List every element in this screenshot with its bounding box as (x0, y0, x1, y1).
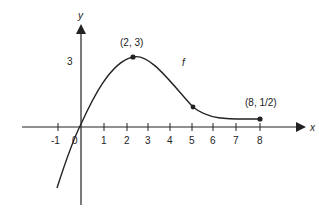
x-tick-labels: -1 0 1 2 3 4 5 6 7 8 (51, 135, 263, 146)
svg-text:3: 3 (145, 135, 151, 146)
svg-text:5: 5 (189, 135, 195, 146)
svg-text:1: 1 (101, 135, 107, 146)
x-axis-arrow-icon (296, 122, 306, 132)
function-label: f (182, 57, 186, 68)
inflection-point (191, 105, 196, 110)
function-curve (57, 57, 260, 188)
max-point (130, 54, 135, 59)
y-axis-arrow-icon (76, 24, 86, 34)
y-axis-label: y (77, 10, 84, 21)
x-axis-label: x (309, 122, 316, 133)
function-graph: x y -1 0 1 2 3 4 5 6 7 8 3 (2, 3) (8, 1/… (0, 0, 319, 210)
svg-text:8: 8 (257, 135, 263, 146)
svg-text:-1: -1 (51, 135, 60, 146)
svg-text:4: 4 (167, 135, 173, 146)
svg-text:7: 7 (233, 135, 239, 146)
y-tick-label: 3 (67, 56, 73, 67)
svg-text:2: 2 (124, 135, 130, 146)
max-point-label: (2, 3) (120, 37, 143, 48)
endpoint-label: (8, 1/2) (245, 97, 277, 108)
endpoint (257, 116, 262, 121)
svg-text:6: 6 (210, 135, 216, 146)
